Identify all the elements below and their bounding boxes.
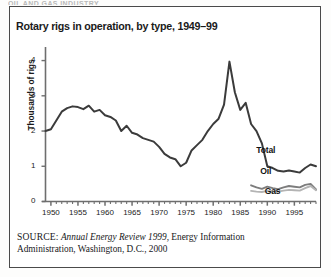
figure-container: OIL AND GAS INDUSTRY Rotary rigs in oper… — [0, 0, 331, 277]
cutoff-header-text: OIL AND GAS INDUSTRY — [8, 0, 128, 5]
x-tick-label: 1985 — [225, 208, 255, 217]
x-tick-label: 1960 — [90, 208, 120, 217]
y-tick-label: 3 — [22, 90, 36, 99]
y-tick-label: 1 — [22, 161, 36, 170]
page-title: Rotary rigs in operation, by type, 1949–… — [16, 20, 217, 32]
y-tick-label: 2 — [22, 126, 36, 135]
x-tick-label: 1955 — [63, 208, 93, 217]
series-label-oil: Oil — [260, 166, 271, 176]
figure-frame — [9, 6, 321, 268]
x-tick-label: 1970 — [144, 208, 174, 217]
x-tick-label: 1950 — [36, 208, 66, 217]
source-publication-title: Annual Energy Review 1999 — [61, 232, 167, 242]
x-tick-label: 1980 — [198, 208, 228, 217]
frame-inner-shade — [10, 7, 320, 267]
y-tick-label: 4 — [22, 55, 36, 64]
y-tick-label: 0 — [22, 196, 36, 205]
x-tick-label: 1975 — [171, 208, 201, 217]
series-label-total: Total — [256, 145, 275, 155]
source-note: SOURCE: Annual Energy Review 1999, Energ… — [17, 231, 305, 255]
series-label-gas: Gas — [265, 186, 281, 196]
x-tick-label: 1995 — [279, 208, 309, 217]
source-prefix: SOURCE: — [17, 231, 59, 242]
x-tick-label: 1965 — [117, 208, 147, 217]
x-tick-label: 1990 — [252, 208, 282, 217]
